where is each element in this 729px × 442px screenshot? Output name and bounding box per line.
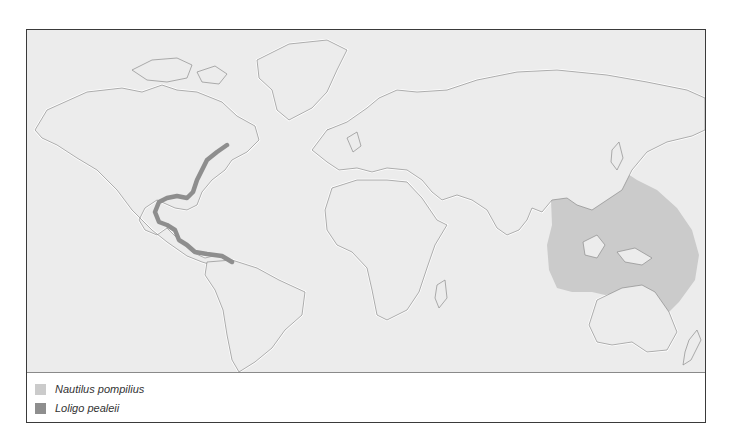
figure-frame: Nautilus pompilius Loligo pealeii [26,29,706,423]
world-map-svg [27,30,705,372]
legend: Nautilus pompilius Loligo pealeii [27,373,705,422]
legend-swatch-loligo [35,403,46,414]
arctic-islands [132,58,227,84]
legend-label: Nautilus pompilius [55,383,144,395]
north-america [35,85,259,268]
new-zealand [683,330,701,365]
legend-swatch-nautilus [35,384,46,395]
south-america [205,260,305,372]
legend-label: Loligo pealeii [55,402,119,414]
world-map [27,30,705,373]
madagascar [435,280,447,308]
legend-item-loligo: Loligo pealeii [35,401,119,415]
legend-item-nautilus: Nautilus pompilius [35,382,144,396]
africa [325,180,447,320]
